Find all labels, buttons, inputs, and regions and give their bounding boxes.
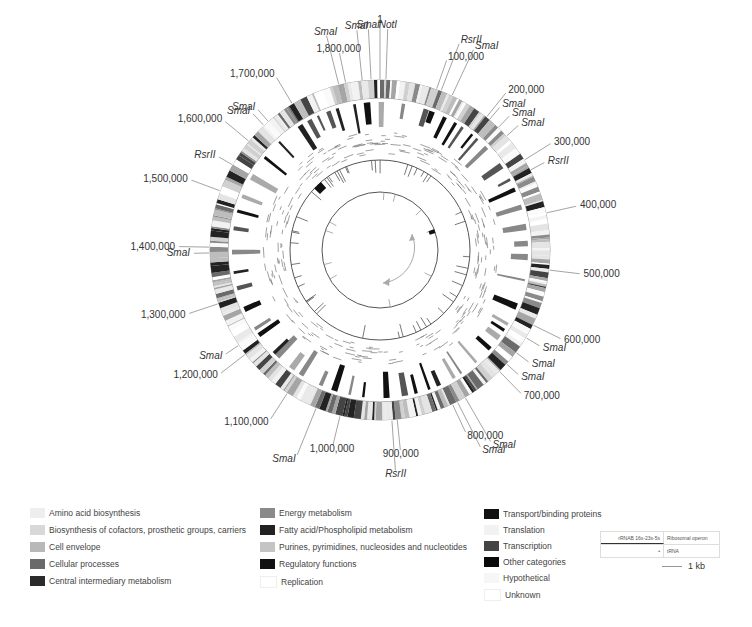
operon-mark xyxy=(294,298,297,303)
operon-mark xyxy=(347,138,353,140)
gene-segment xyxy=(514,241,528,247)
legend-swatch xyxy=(260,559,275,569)
legend-label: Replication xyxy=(281,577,323,587)
operon-mark xyxy=(265,264,266,271)
legend-item: Replication xyxy=(260,576,323,588)
legend-swatch xyxy=(30,542,45,552)
operon-mark xyxy=(359,356,368,357)
gene-segment xyxy=(264,156,287,175)
label-leader xyxy=(517,353,529,362)
operon-mark xyxy=(302,323,308,329)
gene-segment xyxy=(380,80,384,98)
operon-mark xyxy=(282,230,283,234)
coordinate-label: 400,000 xyxy=(580,199,617,210)
restriction-site-label: SmaI xyxy=(543,342,567,353)
rrna-tick xyxy=(291,263,300,264)
operon-mark xyxy=(303,336,311,342)
gene-segment xyxy=(382,402,386,420)
ribosomal-operon-label: Ribosomal operon xyxy=(664,532,719,544)
rrna-tick xyxy=(413,325,416,332)
legend-label: Biosynthesis of cofactors, prosthetic gr… xyxy=(49,525,246,535)
operon-mark xyxy=(263,247,264,258)
rrna-tick xyxy=(456,266,468,268)
operon-mark xyxy=(482,218,485,227)
operon-mark xyxy=(389,359,396,360)
restriction-site-label: RsrII xyxy=(194,149,215,160)
operon-mark xyxy=(357,355,362,356)
operon-mark xyxy=(363,358,372,359)
operon-mark xyxy=(333,357,341,360)
legend-label: Transport/binding proteins xyxy=(503,509,601,519)
gene-segment xyxy=(374,80,378,98)
operon-mark xyxy=(350,347,354,348)
operon-mark xyxy=(328,157,334,161)
operon-mark xyxy=(349,134,358,136)
label-leader xyxy=(500,372,521,393)
operon-mark xyxy=(330,346,333,347)
operon-mark xyxy=(472,310,474,313)
gene-segment xyxy=(502,224,526,233)
operon-mark xyxy=(461,304,463,308)
operon-mark xyxy=(429,336,434,339)
legend-label: Hypothetical xyxy=(503,573,550,583)
gene-segment xyxy=(457,341,477,364)
restriction-site-label: SmaI xyxy=(482,444,506,455)
gene-segment xyxy=(383,372,390,398)
gene-segment xyxy=(441,122,457,146)
operon-mark xyxy=(436,330,441,334)
operon-mark xyxy=(494,266,495,271)
gene-segment xyxy=(379,102,384,127)
operon-mark xyxy=(323,153,326,155)
gene-segment xyxy=(433,116,447,138)
operon-mark xyxy=(326,335,334,339)
operon-mark xyxy=(450,171,455,176)
rrna-tick xyxy=(414,168,417,175)
inner-tick xyxy=(425,273,432,277)
coordinate-label: 1,300,000 xyxy=(141,309,186,320)
rrna-tick xyxy=(450,292,457,296)
operon-mark xyxy=(352,359,362,361)
rrna-tick xyxy=(442,294,453,302)
legend-swatch xyxy=(260,576,277,588)
operon-mark xyxy=(464,296,466,299)
operon-mark xyxy=(456,306,459,310)
operon-mark xyxy=(481,191,486,200)
coordinate-label: 900,000 xyxy=(383,448,420,459)
operon-mark xyxy=(327,166,331,169)
operon-mark xyxy=(461,321,463,324)
operon-mark xyxy=(270,231,271,238)
operon-mark xyxy=(367,143,373,144)
gene-segment xyxy=(496,205,523,217)
operon-mark xyxy=(279,197,280,200)
label-leader xyxy=(258,110,268,121)
operon-mark xyxy=(475,220,476,224)
coordinate-label: 700,000 xyxy=(524,390,561,401)
operon-mark xyxy=(321,348,324,350)
gene-segment xyxy=(497,274,525,282)
label-leader xyxy=(189,304,217,313)
scale-label: 1 kb xyxy=(688,561,705,571)
label-leader xyxy=(219,157,232,165)
operon-mark xyxy=(471,187,476,195)
operon-mark xyxy=(454,159,462,165)
operon-mark xyxy=(314,169,319,173)
functional-category-ring xyxy=(210,80,550,420)
legend-item: Transcription xyxy=(484,541,552,551)
operon-mark xyxy=(286,314,293,322)
label-leader xyxy=(507,364,518,374)
operon-mark xyxy=(334,343,342,346)
operon-mark xyxy=(284,187,288,194)
restriction-site-label: SmaI xyxy=(314,26,338,37)
highlighted-gene-ring xyxy=(232,102,528,398)
legend-label: Energy metabolism xyxy=(279,508,352,518)
rrna-tick xyxy=(438,308,444,314)
legend-item: Cell envelope xyxy=(30,542,101,552)
gene-segment xyxy=(532,248,550,250)
legend-label: Unknown xyxy=(505,590,540,600)
operon-mark xyxy=(284,215,286,223)
operon-mark xyxy=(374,144,385,145)
gene-segment xyxy=(289,352,305,370)
inner-tick xyxy=(393,194,395,202)
coordinate-label: 1,600,000 xyxy=(178,113,223,124)
rrna-tick xyxy=(314,303,323,312)
